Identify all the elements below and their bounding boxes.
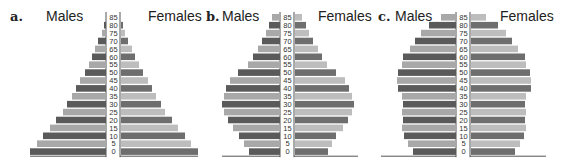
age-tick-label: 40 <box>109 84 117 93</box>
male-bar-age-25 <box>224 109 280 116</box>
age-tick-label: 70 <box>109 37 117 46</box>
age-tick-label: 85 <box>283 13 291 22</box>
age-tick-label: 75 <box>283 29 291 38</box>
male-bar-age-45 <box>397 77 456 84</box>
female-bar-age-0 <box>295 148 328 155</box>
male-bar-age-50 <box>85 69 106 76</box>
female-bar-age-55 <box>121 61 139 68</box>
age-tick-label: 85 <box>109 13 117 22</box>
female-bar-age-55 <box>471 61 526 68</box>
age-tick-label: 55 <box>459 60 467 69</box>
female-bar-age-5 <box>295 140 332 147</box>
male-bar-age-80 <box>269 22 280 29</box>
panel-letter: a. <box>10 9 23 24</box>
female-bar-age-55 <box>295 61 327 68</box>
age-tick-label: 30 <box>459 100 467 109</box>
male-bar-age-65 <box>258 46 280 53</box>
female-bar-age-0 <box>471 148 515 155</box>
female-bar-age-85 <box>471 14 486 21</box>
age-tick-label: 50 <box>109 68 117 77</box>
male-bar-age-15 <box>402 125 456 132</box>
female-bar-age-65 <box>121 46 132 53</box>
age-tick-label: 20 <box>459 116 467 125</box>
age-tick-label: 5 <box>285 139 289 148</box>
age-tick-label: 85 <box>459 13 467 22</box>
female-bar-age-40 <box>121 85 152 92</box>
age-tick-label: 65 <box>459 45 467 54</box>
female-bar-age-45 <box>121 77 148 84</box>
age-tick-label: 25 <box>283 108 291 117</box>
male-bar-age-30 <box>67 101 106 108</box>
age-tick-label: 5 <box>461 139 465 148</box>
male-bar-age-75 <box>102 30 106 37</box>
female-bar-age-65 <box>471 46 518 53</box>
age-tick-label: 30 <box>109 100 117 109</box>
age-tick-label: 60 <box>459 53 467 62</box>
female-bar-age-30 <box>295 101 354 108</box>
female-bar-age-70 <box>295 38 313 45</box>
male-bar-age-65 <box>95 46 106 53</box>
male-bar-age-45 <box>230 77 280 84</box>
age-tick-label: 45 <box>283 76 291 85</box>
male-bar-age-55 <box>248 61 280 68</box>
female-bar-age-20 <box>121 117 172 124</box>
age-tick-label: 45 <box>109 76 117 85</box>
female-bar-age-40 <box>471 85 531 92</box>
age-tick-label: 30 <box>283 100 291 109</box>
female-bar-age-80 <box>121 22 123 29</box>
female-bar-age-20 <box>295 117 348 124</box>
age-tick-label: 10 <box>109 132 117 141</box>
male-bar-age-25 <box>63 109 106 116</box>
age-tick-label: 70 <box>459 37 467 46</box>
female-bar-age-60 <box>471 54 525 61</box>
males-label: Males <box>222 8 259 24</box>
age-tick-label: 0 <box>461 147 465 156</box>
age-tick-label: 15 <box>109 124 117 133</box>
female-bar-age-25 <box>121 109 165 116</box>
age-tick-label: 60 <box>109 53 117 62</box>
age-tick-label: 80 <box>109 21 117 30</box>
female-bar-age-50 <box>295 69 336 76</box>
male-bar-age-10 <box>43 133 106 140</box>
age-tick-label: 5 <box>111 139 115 148</box>
age-tick-label: 80 <box>283 21 291 30</box>
male-bar-age-35 <box>402 93 456 100</box>
age-tick-label: 25 <box>109 108 117 117</box>
male-bar-age-60 <box>92 54 106 61</box>
female-bar-age-85 <box>295 14 302 21</box>
age-tick-label: 75 <box>109 29 117 38</box>
female-bar-age-25 <box>295 109 352 116</box>
female-bar-age-5 <box>121 140 191 147</box>
male-bar-age-0 <box>413 148 456 155</box>
females-label: Females <box>318 8 372 24</box>
males-label: Males <box>46 8 83 24</box>
male-bar-age-25 <box>402 109 456 116</box>
male-bar-age-80 <box>429 22 456 29</box>
female-bar-age-60 <box>121 54 135 61</box>
age-tick-label: 70 <box>283 37 291 46</box>
age-tick-label: 80 <box>459 21 467 30</box>
female-bar-age-35 <box>121 93 156 100</box>
male-bar-age-5 <box>37 140 106 147</box>
male-bar-age-35 <box>72 93 106 100</box>
age-tick-label: 20 <box>283 116 291 125</box>
female-bar-age-50 <box>121 69 143 76</box>
panel-letter: c. <box>378 9 390 24</box>
male-bar-age-5 <box>244 140 280 147</box>
female-bar-age-75 <box>121 30 125 37</box>
male-bar-age-40 <box>398 85 456 92</box>
male-bar-age-85 <box>272 14 280 21</box>
age-tick-label: 75 <box>459 29 467 38</box>
age-tick-label: 0 <box>111 147 115 156</box>
female-bar-age-70 <box>121 38 128 45</box>
female-bar-age-20 <box>471 117 525 124</box>
male-bar-age-35 <box>224 93 280 100</box>
female-bar-age-10 <box>295 133 336 140</box>
age-tick-label: 10 <box>283 132 291 141</box>
age-tick-label: 40 <box>283 84 291 93</box>
male-bar-age-15 <box>233 125 280 132</box>
age-tick-label: 10 <box>459 132 467 141</box>
female-bar-age-80 <box>471 22 498 29</box>
female-bar-age-45 <box>471 77 531 84</box>
male-bar-age-50 <box>398 69 456 76</box>
